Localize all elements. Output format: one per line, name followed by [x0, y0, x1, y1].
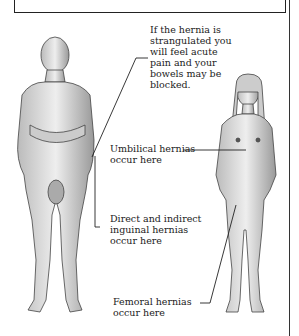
umbilical-hernia-label: Umbilical hernias occur here: [110, 143, 195, 165]
female-figure: [216, 74, 276, 312]
inguinal-hernia-label: Direct and indirect inguinal hernias occ…: [110, 213, 201, 246]
femoral-hernia-label: Femoral hernias occur here: [113, 296, 192, 318]
strangulated-hernia-label: If the hernia is strangulated you will f…: [150, 24, 232, 90]
male-figure: [18, 37, 94, 312]
